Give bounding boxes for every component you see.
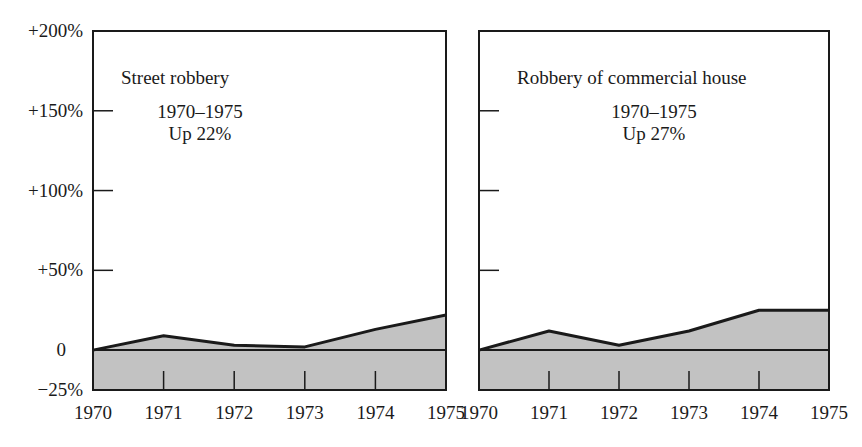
y-ticks — [93, 111, 113, 271]
x-tick-label: 1971 — [145, 402, 183, 423]
annotation-period: 1970–1975 — [157, 101, 243, 122]
x-tick-label: 1973 — [670, 402, 708, 423]
y-ticks — [479, 111, 499, 271]
x-tick-label: 1970 — [460, 402, 498, 423]
y-tick-label: 0 — [57, 339, 67, 360]
x-axis-labels: 197019711972197319741975 — [74, 402, 465, 423]
annotation-change: Up 22% — [169, 123, 232, 144]
x-axis-labels: 197019711972197319741975 — [460, 402, 848, 423]
x-tick-label: 1974 — [356, 402, 395, 423]
x-tick-label: 1972 — [215, 402, 253, 423]
panel-commercial-house-robbery: Robbery of commercial house 1970–1975 Up… — [460, 31, 848, 423]
x-tick-label: 1971 — [530, 402, 568, 423]
x-tick-label: 1974 — [740, 402, 779, 423]
x-tick-label: 1970 — [74, 402, 112, 423]
y-tick-label: −25% — [37, 379, 83, 400]
x-tick-label: 1972 — [600, 402, 638, 423]
panel-title: Robbery of commercial house — [517, 67, 747, 88]
negative-band — [479, 350, 829, 390]
figure: +200%+150%+100%+50%0−25% Street robbery … — [0, 0, 862, 447]
area-fill — [479, 310, 829, 350]
x-tick-label: 1973 — [286, 402, 324, 423]
annotation-change: Up 27% — [623, 123, 686, 144]
y-tick-label: +150% — [28, 100, 83, 121]
y-axis-labels: +200%+150%+100%+50%0−25% — [28, 20, 83, 400]
y-tick-label: +200% — [28, 20, 83, 41]
annotation-period: 1970–1975 — [611, 101, 697, 122]
panel-street-robbery: Street robbery 1970–1975 Up 22% 19701971… — [74, 31, 465, 423]
panel-title: Street robbery — [121, 67, 230, 88]
negative-band — [93, 350, 446, 390]
y-tick-label: +50% — [37, 259, 83, 280]
x-tick-label: 1975 — [810, 402, 848, 423]
y-tick-label: +100% — [28, 180, 83, 201]
